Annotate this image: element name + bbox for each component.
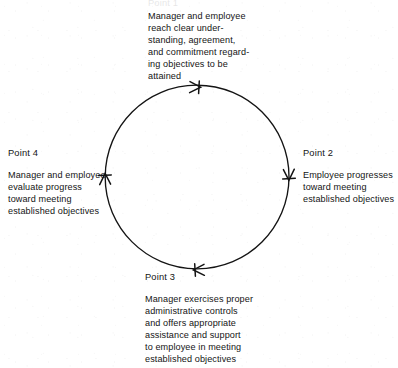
point-2-label: Point 2	[303, 148, 333, 160]
point-4-description: Manager and employee evaluate progress t…	[8, 170, 113, 218]
cycle-ring	[105, 85, 289, 269]
point-2-description: Employee progresses toward meeting estab…	[303, 170, 398, 206]
point-3-label: Point 3	[145, 272, 175, 284]
arrowhead-point1	[190, 81, 201, 94]
cycle-diagram: Point 1 Manager and employee reach clear…	[0, 0, 398, 368]
point-3-description: Manager exercises proper administrative …	[145, 294, 280, 365]
point-1-label: Point 1	[148, 0, 238, 10]
point-4-label: Point 4	[8, 148, 38, 160]
point-1-description: Manager and employee reach clear under- …	[148, 11, 278, 82]
arrowhead-point3	[193, 264, 204, 277]
